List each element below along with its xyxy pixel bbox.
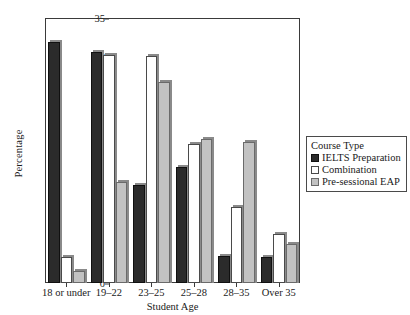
x-axis-tick-label: Over 35 — [262, 287, 296, 298]
bar — [243, 142, 255, 283]
legend-swatch — [311, 166, 319, 174]
x-axis-tick-label: 19–22 — [96, 287, 122, 298]
bar — [286, 244, 298, 283]
bar — [201, 139, 213, 283]
x-axis-tick-label: 28–35 — [223, 287, 249, 298]
legend-swatch — [311, 178, 319, 186]
y-axis-tick-mark — [105, 18, 109, 19]
x-axis-tick-mark — [279, 283, 280, 287]
legend-item-label: Pre-sessional EAP — [322, 176, 400, 187]
bar — [133, 185, 145, 283]
bar — [61, 257, 73, 284]
legend: Course Type IELTS PreparationCombination… — [306, 136, 407, 192]
legend-item-label: Combination — [322, 164, 377, 175]
x-axis-tick-label: 23–25 — [138, 287, 164, 298]
x-axis-tick-mark — [109, 283, 110, 287]
bar — [176, 167, 188, 283]
legend-item-label: IELTS Preparation — [322, 152, 401, 163]
x-axis-tick-label: 25–28 — [181, 287, 207, 298]
bar-chart: Percentage 05101520253035 18 or under19–… — [0, 0, 410, 315]
x-axis-tick-label: 18 or under — [42, 287, 90, 298]
x-axis-title: Student Age — [45, 301, 300, 312]
x-axis-tick-mark — [151, 283, 152, 287]
bar — [188, 144, 200, 283]
legend-item: IELTS Preparation — [311, 152, 402, 163]
bar — [158, 82, 170, 283]
y-axis-title: Percentage — [13, 109, 24, 199]
y-axis-tick-label: 35 — [65, 13, 105, 24]
x-axis-tick-mark — [66, 283, 67, 287]
legend-item: Pre-sessional EAP — [311, 176, 402, 187]
bar — [103, 55, 115, 283]
bar — [146, 56, 158, 283]
x-axis-tick-mark — [194, 283, 195, 287]
bar — [273, 234, 285, 283]
legend-swatch — [311, 154, 319, 162]
legend-item: Combination — [311, 164, 402, 175]
bar — [231, 207, 243, 283]
x-axis-tick-mark — [236, 283, 237, 287]
bar — [218, 256, 230, 283]
legend-title: Course Type — [311, 140, 402, 151]
bar — [73, 271, 85, 283]
bar — [91, 52, 103, 283]
bar — [116, 182, 128, 283]
legend-rows: IELTS PreparationCombinationPre-sessiona… — [311, 152, 402, 187]
bar — [261, 257, 273, 284]
bar — [48, 42, 60, 283]
